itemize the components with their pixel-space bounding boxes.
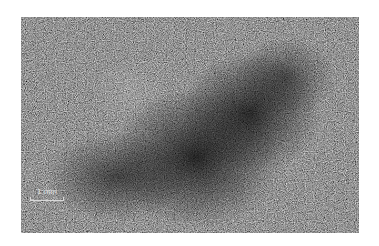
scale-bar-line xyxy=(30,197,64,201)
scale-bar-label: 1 mm xyxy=(37,187,57,197)
micrograph-image: 1 mm xyxy=(21,17,359,233)
scale-bar: 1 mm xyxy=(30,189,64,201)
dark-crescent-region xyxy=(21,17,359,233)
